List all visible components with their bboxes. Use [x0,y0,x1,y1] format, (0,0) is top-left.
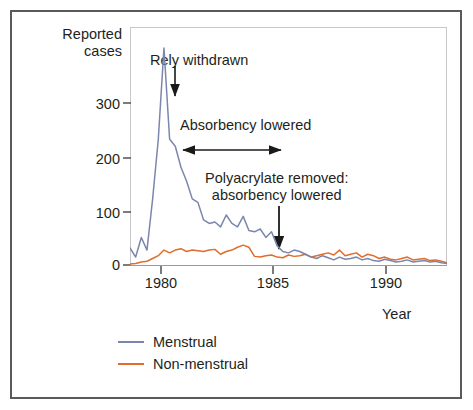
legend-swatch-menstrual [118,341,144,343]
annotation-arrows [175,66,281,249]
axis-tick-marks [123,103,386,274]
data-line-menstrual [130,48,447,263]
legend-item-menstrual: Menstrual [118,331,248,353]
legend: Menstrual Non-menstrual [118,331,248,375]
legend-item-non-menstrual: Non-menstrual [118,353,248,375]
legend-label-non-menstrual: Non-menstrual [153,356,248,372]
figure-container: Reported cases 300 200 100 0 1980 1985 1… [0,0,473,410]
legend-label-menstrual: Menstrual [153,334,217,350]
legend-swatch-non-menstrual [118,363,144,365]
